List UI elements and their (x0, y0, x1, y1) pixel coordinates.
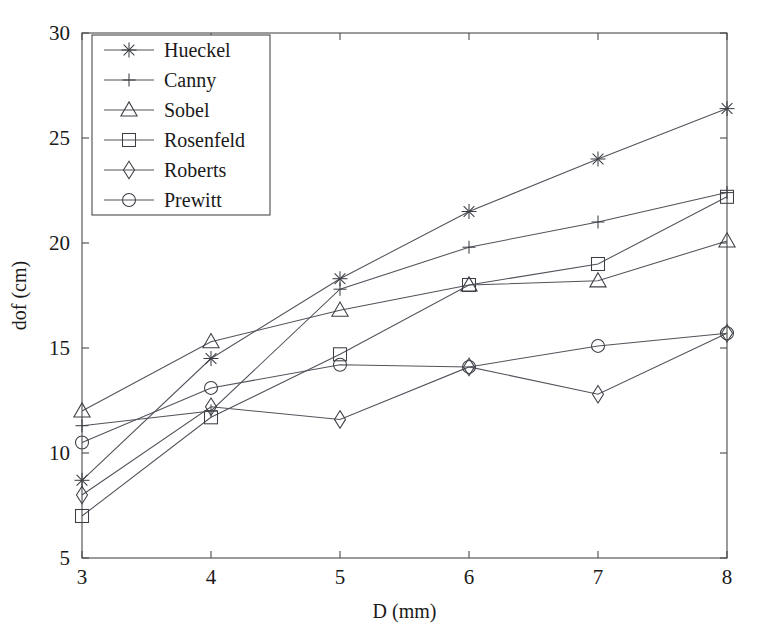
y-tick-label: 5 (60, 546, 71, 570)
legend-label-canny: Canny (164, 69, 216, 92)
chart-figure: 34567851015202530D (mm)dof (cm)HueckelCa… (0, 0, 762, 635)
marker-star-hueckel-4 (591, 152, 606, 167)
marker-plus-canny-3 (463, 241, 476, 254)
series-sobel (74, 233, 735, 417)
series-line-prewitt (82, 333, 727, 442)
legend-box (92, 35, 270, 215)
x-tick-label: 3 (77, 565, 88, 589)
marker-plus-canny-0 (76, 419, 89, 432)
legend-label-rosenfeld: Rosenfeld (164, 129, 245, 151)
legend: HueckelCannySobelRosenfeldRobertsPrewitt (92, 35, 270, 215)
legend-label-roberts: Roberts (164, 159, 226, 181)
series-roberts (76, 325, 732, 504)
marker-star-hueckel-5 (720, 101, 735, 116)
legend-label-hueckel: Hueckel (164, 39, 231, 61)
y-tick-label: 20 (49, 231, 70, 255)
marker-star-legend-hueckel (122, 43, 137, 58)
marker-star-hueckel-1 (204, 351, 219, 366)
series-canny (76, 186, 734, 432)
marker-plus-canny-4 (592, 216, 605, 229)
legend-label-sobel: Sobel (164, 99, 210, 121)
y-axis-title: dof (cm) (8, 261, 31, 330)
y-tick-label: 30 (49, 21, 70, 45)
y-tick-label: 10 (49, 441, 70, 465)
y-tick-label: 25 (49, 126, 70, 150)
x-tick-label: 7 (593, 565, 604, 589)
marker-triangle-sobel-4 (590, 273, 606, 287)
y-tick-label: 15 (49, 336, 70, 360)
x-tick-label: 4 (206, 565, 217, 589)
x-tick-label: 8 (722, 565, 733, 589)
x-tick-label: 6 (464, 565, 475, 589)
x-axis-title: D (mm) (373, 600, 437, 623)
series-prewitt (76, 327, 734, 449)
line-chart: 34567851015202530D (mm)dof (cm)HueckelCa… (0, 0, 762, 635)
series-line-canny (82, 193, 727, 426)
x-tick-label: 5 (335, 565, 346, 589)
series-rosenfeld (76, 190, 734, 522)
series-line-sobel (82, 241, 727, 411)
legend-label-prewitt: Prewitt (164, 189, 222, 211)
marker-star-hueckel-3 (462, 204, 477, 219)
